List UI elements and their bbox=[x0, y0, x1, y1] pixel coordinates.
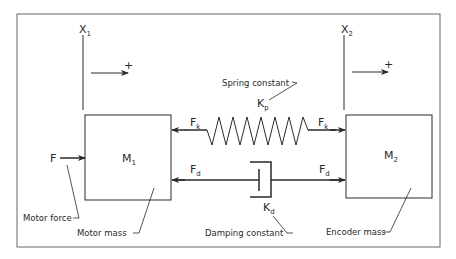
spring bbox=[185, 117, 336, 145]
spring-constant-label: Spring constant bbox=[222, 78, 290, 88]
svg-text:Fd: Fd bbox=[190, 163, 201, 178]
spring-damper-diagram: X1 + X2 + M1 M2 F Motor force Motor mass… bbox=[0, 0, 456, 259]
svg-text:Fk: Fk bbox=[318, 116, 329, 131]
svg-text:Kp: Kp bbox=[257, 97, 269, 112]
encoder-mass-label: Encoder mass bbox=[326, 227, 386, 237]
svg-text:Fk: Fk bbox=[190, 116, 201, 131]
x1-plus-sign: + bbox=[124, 59, 133, 72]
svg-text:X1: X1 bbox=[79, 23, 91, 38]
damper bbox=[175, 162, 340, 197]
svg-text:X2: X2 bbox=[341, 23, 353, 38]
svg-text:Fd: Fd bbox=[319, 163, 330, 178]
m1-label: M bbox=[122, 152, 132, 165]
motor-force-label: Motor force bbox=[23, 213, 72, 223]
motor-mass-label: Motor mass bbox=[77, 228, 127, 238]
x2-plus-sign: + bbox=[384, 58, 393, 71]
m2-label: M bbox=[384, 149, 394, 162]
motor-force-symbol: F bbox=[50, 152, 56, 165]
damping-constant-label: Damping constant bbox=[205, 228, 284, 238]
svg-text:Kd: Kd bbox=[263, 201, 275, 216]
motor-force-leader bbox=[67, 165, 79, 218]
